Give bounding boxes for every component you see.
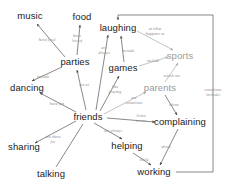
node-helping[interactable]: helping xyxy=(111,141,142,151)
edge-label-parents-sports: watch our xyxy=(164,74,181,79)
edge-label-laughing-sports: at whathappens at xyxy=(146,27,164,36)
node-dancing[interactable]: dancing xyxy=(10,83,44,93)
edge-label-games-sports: include xyxy=(147,59,159,64)
node-laughing[interactable]: laughing xyxy=(100,23,137,33)
edge-label-friends-helping: are always xyxy=(104,129,122,134)
edge-label-parents-complaining: about xyxy=(169,103,179,108)
node-parties[interactable]: parties xyxy=(60,57,89,67)
edge-label-complaining-working: about xyxy=(161,145,171,150)
edge-talking-friends xyxy=(56,124,83,167)
node-friends[interactable]: friends xyxy=(73,112,102,122)
edge-label-helping-working: while xyxy=(139,158,148,163)
node-complaining[interactable]: complaining xyxy=(154,117,206,127)
edge-label-friends-laughing: arealways xyxy=(98,46,110,55)
edge-label-friends-parties: are at xyxy=(79,83,89,88)
node-talking[interactable]: talking xyxy=(37,169,65,179)
edge-label-friends-complaining: listento our xyxy=(136,114,146,123)
edge-label-parties-food: havelots of xyxy=(72,34,82,43)
edge-label-friends-dancing: have fun xyxy=(50,102,64,107)
edge-label-friends-games: likeplaying xyxy=(109,85,122,94)
edge-friends-parties xyxy=(77,70,86,110)
edge-label-parties-music: have food xyxy=(39,38,55,43)
edge-friends-complaining xyxy=(107,118,155,122)
node-games[interactable]: games xyxy=(108,63,137,73)
edge-label-games-laughing: include xyxy=(122,49,134,54)
node-food[interactable]: food xyxy=(73,12,92,22)
edge-label-parties-dancing: include xyxy=(37,75,49,80)
node-working[interactable]: working xyxy=(137,167,170,177)
node-music[interactable]: music xyxy=(17,11,42,21)
node-sharing[interactable]: sharing xyxy=(8,142,40,152)
node-sports[interactable]: sports xyxy=(167,51,193,61)
node-parents[interactable]: parents xyxy=(144,83,176,93)
concept-map-canvas: music food laughing sports parties games… xyxy=(0,0,243,191)
edge-label-friends-parents: aresometimes xyxy=(125,96,143,105)
edge-label-friends-sharing: are therefor xyxy=(45,135,60,144)
edge-label-working-laughing: sometimesincludes xyxy=(204,88,222,97)
